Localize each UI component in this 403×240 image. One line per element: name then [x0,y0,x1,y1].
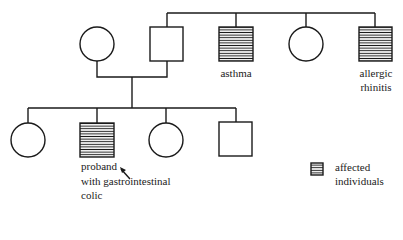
asthma-label: asthma [212,66,260,80]
rhinitis-label-line1: allergic [350,66,402,80]
legend-hatched-square-icon [311,163,323,175]
proband-arrowhead-icon [120,167,126,173]
rhinitis-sibling-hatched-square-icon [359,27,392,61]
aunt-circle-icon [289,27,323,61]
child1-circle-icon [11,123,45,157]
proband-hatched-square-icon [80,123,114,157]
father-square-icon [150,27,183,61]
proband-label-line3: colic [81,188,102,202]
proband-label-line1: proband [81,159,117,173]
legend-label-line1: affected [335,160,370,174]
child3-circle-icon [149,123,183,157]
mother-circle-icon [80,27,114,61]
child4-square-icon [219,122,252,156]
asthma-sibling-hatched-square-icon [219,27,253,61]
legend-label-line2: individuals [335,174,384,188]
proband-label-line2: with gastrointestinal [81,174,171,188]
rhinitis-label-line2: rhinitis [350,80,402,94]
marriage-line [97,61,167,77]
